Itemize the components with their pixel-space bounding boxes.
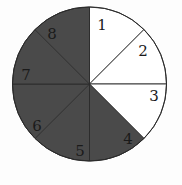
sector-label-8: 8 xyxy=(47,25,57,43)
sector-label-5: 5 xyxy=(75,142,85,160)
sector-label-7: 7 xyxy=(21,66,31,84)
fraction-circle-diagram: 1 2 3 4 5 6 7 8 xyxy=(0,0,182,185)
sector-label-4: 4 xyxy=(123,130,133,148)
sectors-group xyxy=(13,7,167,161)
sector-label-2: 2 xyxy=(138,42,148,60)
sector-label-1: 1 xyxy=(97,16,107,34)
sector-label-6: 6 xyxy=(32,117,42,135)
sector-label-3: 3 xyxy=(149,87,159,105)
